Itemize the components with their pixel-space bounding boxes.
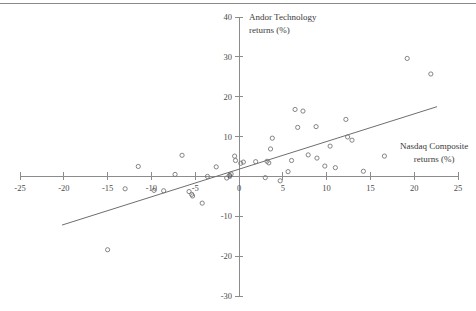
x-axis-title-line2: returns (%) <box>400 153 468 166</box>
data-point <box>405 56 409 60</box>
data-point <box>233 154 237 158</box>
y-tick-label: 10 <box>209 132 232 141</box>
x-tick-label: 0 <box>237 184 241 193</box>
y-tick-label: 20 <box>209 92 232 101</box>
data-point <box>136 164 140 168</box>
data-point <box>323 164 327 168</box>
data-point <box>162 189 166 193</box>
data-point <box>314 125 318 129</box>
data-point <box>270 136 274 140</box>
legend-sample-marker <box>382 154 386 158</box>
data-point <box>180 153 184 157</box>
data-point <box>278 179 282 183</box>
data-point <box>296 125 300 129</box>
data-point <box>268 147 272 151</box>
data-point <box>293 107 297 111</box>
data-point <box>333 166 337 170</box>
data-point <box>429 72 433 76</box>
data-point <box>289 158 293 162</box>
y-axis-title-line1: Andor Technology <box>249 11 316 24</box>
x-tick-label: -5 <box>192 184 199 193</box>
x-tick-label: -15 <box>102 184 113 193</box>
data-point <box>350 138 354 142</box>
y-tick-label: 0 <box>209 172 232 181</box>
data-point <box>301 109 305 113</box>
y-axis-title-line2: returns (%) <box>249 24 316 37</box>
data-point <box>123 187 127 191</box>
x-tick-label: -10 <box>146 184 157 193</box>
x-axis-title: Nasdaq Composite returns (%) <box>400 140 468 166</box>
x-tick-label: -20 <box>58 184 69 193</box>
data-point <box>361 169 365 173</box>
y-tick-label: 30 <box>209 53 232 62</box>
data-point <box>315 156 319 160</box>
data-point <box>254 160 258 164</box>
y-tick-label: -30 <box>209 292 232 301</box>
data-point <box>346 135 350 139</box>
y-axis-title: Andor Technology returns (%) <box>249 11 316 37</box>
y-tick-label: 40 <box>209 13 232 22</box>
data-point <box>286 170 290 174</box>
trend-line <box>62 107 437 225</box>
x-tick-label: 5 <box>281 184 285 193</box>
data-point <box>233 158 237 162</box>
axes-group <box>20 17 458 296</box>
trend-line-segment <box>62 107 437 225</box>
x-tick-label: 20 <box>410 184 419 193</box>
data-point <box>214 165 218 169</box>
data-point <box>173 172 177 176</box>
x-tick-label: -25 <box>14 184 25 193</box>
x-tick-label: 25 <box>454 184 463 193</box>
data-point <box>106 248 110 252</box>
x-tick-label: 10 <box>322 184 331 193</box>
scatter-chart-figure: -25-20-15-10-50510152025 403020100-10-20… <box>0 0 476 311</box>
x-tick-label: 15 <box>366 184 375 193</box>
data-point <box>344 117 348 121</box>
data-point <box>306 153 310 157</box>
y-tick-label: -20 <box>209 252 232 261</box>
y-tick-label: -10 <box>209 212 232 221</box>
data-point <box>328 144 332 148</box>
x-axis-title-line1: Nasdaq Composite <box>400 140 468 153</box>
data-point <box>200 201 204 205</box>
legend-marker <box>382 154 386 158</box>
